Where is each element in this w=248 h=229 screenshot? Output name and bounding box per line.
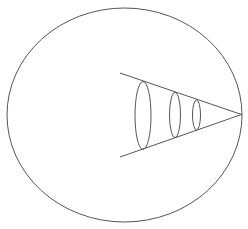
- cone-cross-section-small: [193, 100, 201, 130]
- cone-cross-section-large: [135, 82, 151, 150]
- cone-cross-section-medium: [170, 93, 181, 138]
- cone-in-ellipse-diagram: [0, 0, 248, 229]
- outer-ellipse: [7, 8, 242, 222]
